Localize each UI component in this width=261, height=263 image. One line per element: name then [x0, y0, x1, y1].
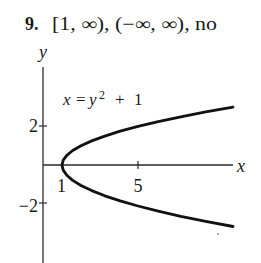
equation-label: x = y 2 + 1: [62, 84, 143, 109]
y-tick-label-neg2: −2: [19, 196, 38, 216]
equation-base: y: [87, 90, 97, 109]
x-tick-label-1: 1: [57, 176, 66, 196]
equation-exponent: 2: [99, 88, 105, 102]
equation-lhs: x: [62, 90, 71, 109]
x-axis-label: x: [236, 156, 245, 176]
problem-figure: 9. [1, ∞), (−∞, ∞), no y x 2 −2 1 5 x = …: [0, 0, 261, 263]
problem-number: 9.: [25, 14, 39, 34]
parabola-curve: [62, 107, 233, 226]
y-tick-label-2: 2: [29, 116, 38, 136]
equation-plus: +: [115, 90, 125, 109]
y-axis-label: y: [37, 42, 47, 62]
scan-speck: [217, 233, 219, 235]
equation-equals: =: [76, 90, 86, 109]
x-tick-label-5: 5: [134, 176, 143, 196]
equation-constant: 1: [134, 90, 143, 109]
problem-answer: [1, ∞), (−∞, ∞), no: [52, 14, 217, 35]
